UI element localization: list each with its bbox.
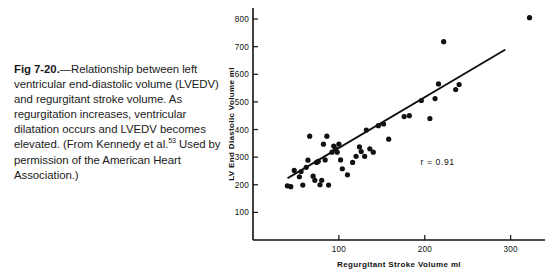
data-point: [288, 184, 293, 189]
data-point: [317, 182, 322, 187]
y-tick-label: 800: [235, 15, 250, 24]
data-point: [436, 81, 441, 86]
data-point: [340, 166, 345, 171]
x-tick-label: 100: [332, 245, 347, 254]
data-point: [407, 113, 412, 118]
y-tick-label: 200: [235, 181, 250, 190]
data-point: [312, 178, 317, 183]
x-axis-tick-labels: 100200300: [332, 245, 518, 254]
y-tick-label: 600: [235, 70, 250, 79]
data-point: [457, 82, 462, 87]
y-tick-label: 700: [235, 43, 250, 52]
chart-annotations-group: r = 0.91: [421, 157, 455, 167]
data-point: [326, 182, 331, 187]
correlation-annotation: r = 0.91: [421, 157, 455, 167]
data-point: [357, 144, 362, 149]
scatter-plot-svg: 100200300400500600700800 100200300 r = 0…: [0, 0, 553, 273]
data-point: [307, 134, 312, 139]
data-point: [441, 39, 446, 44]
y-tick-label: 300: [235, 153, 250, 162]
x-axis-title: Regurgitant Stroke Volume ml: [337, 260, 461, 269]
y-axis-title: LV End Diastolic Volume ml: [227, 67, 236, 181]
regression-line-group: [288, 50, 504, 178]
data-point: [359, 149, 364, 154]
x-tick-label: 300: [504, 245, 519, 254]
y-tick-label: 500: [235, 98, 250, 107]
data-point: [321, 142, 326, 147]
data-point: [453, 87, 458, 92]
y-tick-label: 100: [235, 208, 250, 217]
data-point: [527, 15, 532, 20]
data-point: [297, 174, 302, 179]
data-point: [386, 137, 391, 142]
scatter-points-group: [285, 15, 532, 189]
data-point: [427, 116, 432, 121]
figure-page: Fig 7-20.—Relationship between left vent…: [0, 0, 553, 273]
x-tick-label: 200: [418, 245, 433, 254]
regression-line: [288, 50, 504, 178]
data-point: [350, 160, 355, 165]
scatter-figure: 100200300400500600700800 100200300 r = 0…: [0, 0, 553, 273]
data-point: [362, 154, 367, 159]
data-point: [300, 182, 305, 187]
y-axis-tick-labels: 100200300400500600700800: [235, 15, 250, 217]
data-point: [338, 157, 343, 162]
data-point: [305, 158, 310, 163]
data-point: [371, 150, 376, 155]
y-tick-label: 400: [235, 126, 250, 135]
data-point: [402, 114, 407, 119]
data-point: [345, 172, 350, 177]
data-point: [319, 178, 324, 183]
data-point: [432, 96, 437, 101]
data-point: [353, 154, 358, 159]
data-point: [324, 134, 329, 139]
